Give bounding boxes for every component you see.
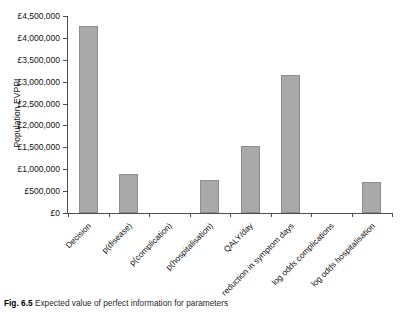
x-axis-label-text: Decision [64,221,93,250]
y-axis-tick-label: £2,500,000 [0,100,60,109]
y-axis-tick-label: £1,000,000 [0,165,60,174]
bar [119,174,138,213]
x-axis-tick-mark [190,213,191,217]
y-axis-tick-mark [63,16,67,17]
figure-caption-text: Expected value of perfect information fo… [35,298,228,308]
y-axis-tick-label: £3,500,000 [0,56,60,65]
x-axis-tick-mark [109,213,110,217]
y-axis-tick-mark [63,125,67,126]
figure-caption: Fig. 6.5 Expected value of perfect infor… [4,298,416,309]
y-axis-tick-mark [63,82,67,83]
plot-area [68,16,392,213]
y-axis-tick-label: £1,500,000 [0,143,60,152]
y-axis-tick-mark [63,191,67,192]
bar [281,75,300,213]
x-axis-label-text: reduction in symptom days [220,221,296,297]
y-axis-tick-label: £0 [0,209,60,218]
y-axis-tick-mark [63,104,67,105]
x-axis-tick-mark [311,213,312,217]
y-axis-tick-mark [63,169,67,170]
x-axis-label-text: QALY/day [223,221,256,254]
y-axis-title: Population EVPPI [12,53,22,173]
x-axis-tick-mark [352,213,353,217]
x-axis-label-text: p(disease) [100,221,134,255]
y-axis-tick-label: £500,000 [0,187,60,196]
y-axis-tick-mark [63,147,67,148]
x-axis-tick-mark [230,213,231,217]
y-axis-tick-mark [63,38,67,39]
x-axis-tick-mark [271,213,272,217]
x-axis-tick-mark [149,213,150,217]
y-axis-tick-mark [63,60,67,61]
y-axis-tick-label: £2,000,000 [0,121,60,130]
y-axis-tick-label: £4,000,000 [0,34,60,43]
y-axis-tick-label: £3,000,000 [0,78,60,87]
figure-number: Fig. 6.5 [4,298,33,308]
bar [79,26,98,213]
x-axis-tick-mark [392,213,393,217]
y-axis-tick-mark [63,213,67,214]
x-axis-tick-mark [68,213,69,217]
y-axis-tick-label: £4,500,000 [0,12,60,21]
figure-container: Population EVPPI £0£500,000£1,000,000£1,… [0,0,418,312]
